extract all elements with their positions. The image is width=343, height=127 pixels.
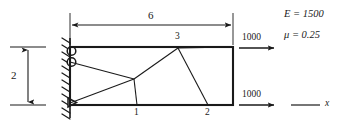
top-load-label: 1000 [242, 33, 261, 43]
length-dimension-label: 6 [148, 10, 154, 21]
figure-container: 6 2 3 1 2 1000 1000 E = 1500 μ = 0.25 x [0, 0, 343, 127]
mesh-edges [70, 47, 233, 105]
node-label-1: 1 [134, 108, 139, 118]
node-label-3: 3 [175, 32, 180, 42]
youngs-modulus-label: E = 1500 [284, 9, 324, 20]
node-label-2: 2 [205, 108, 210, 118]
height-dimension-label: 2 [11, 70, 17, 81]
x-axis-label: x [325, 99, 329, 109]
bottom-load-label: 1000 [242, 90, 261, 100]
poisson-ratio-label: μ = 0.25 [284, 30, 320, 41]
plate-outline [70, 47, 233, 105]
